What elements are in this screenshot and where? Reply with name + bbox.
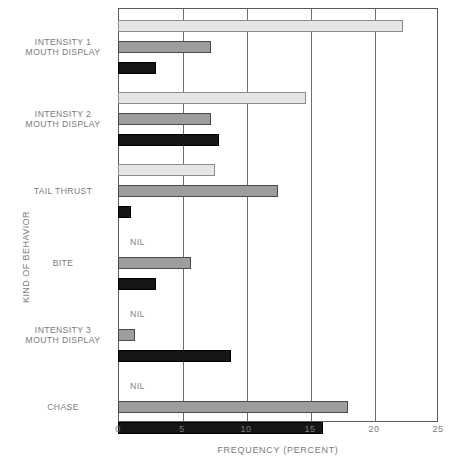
category-label: TAIL THRUST [12,186,114,197]
category-label-line: INTENSITY 2 [12,109,114,120]
x-tick-label: 0 [115,424,120,434]
category-label: INTENSITY 2MOUTH DISPLAY [12,109,114,130]
category-label-line: MOUTH DISPLAY [12,335,114,346]
category-label-line: INTENSITY 3 [12,325,114,336]
category-label-line: BITE [12,258,114,269]
category-label: INTENSITY 1MOUTH DISPLAY [12,37,114,58]
category-label: INTENSITY 3MOUTH DISPLAY [12,325,114,346]
x-axis-title: FREQUENCY (PERCENT) [118,445,438,455]
category-label-line: CHASE [12,402,114,413]
x-axis-ticks: 0510152025 [118,424,438,438]
gridline-20 [375,9,376,421]
category-label: CHASE [12,402,114,413]
category-label-line: MOUTH DISPLAY [12,119,114,130]
gridline-10 [247,9,248,421]
category-label-line: INTENSITY 1 [12,37,114,48]
plot-area [118,8,438,422]
x-tick-label: 5 [179,424,184,434]
bar-chart: KIND OF BEHAVIOR INTENSITY 1MOUTH DISPLA… [0,0,457,468]
gridline-5 [183,9,184,421]
x-tick-label: 15 [305,424,316,434]
category-label-line: MOUTH DISPLAY [12,47,114,58]
x-tick-label: 20 [369,424,380,434]
category-label: BITE [12,258,114,269]
x-tick-label: 25 [433,424,444,434]
category-label-line: TAIL THRUST [12,186,114,197]
category-axis-labels: INTENSITY 1MOUTH DISPLAYINTENSITY 2MOUTH… [12,8,114,422]
gridline-15 [311,9,312,421]
x-tick-label: 10 [241,424,252,434]
